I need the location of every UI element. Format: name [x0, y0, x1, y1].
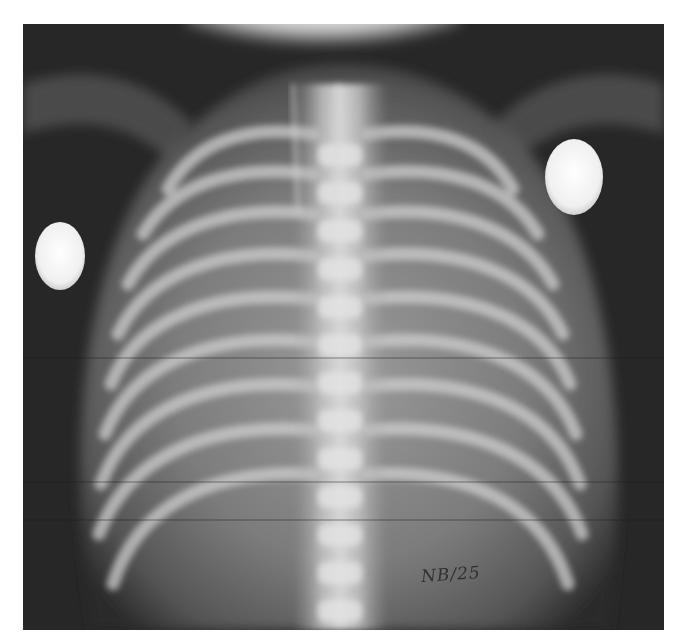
- film-label: NB/25: [420, 562, 481, 586]
- chest-xray-image: NB/25: [23, 24, 664, 630]
- left-skin-marker: [35, 222, 85, 290]
- right-skin-marker: [545, 139, 603, 215]
- xray-rendering: [23, 24, 664, 630]
